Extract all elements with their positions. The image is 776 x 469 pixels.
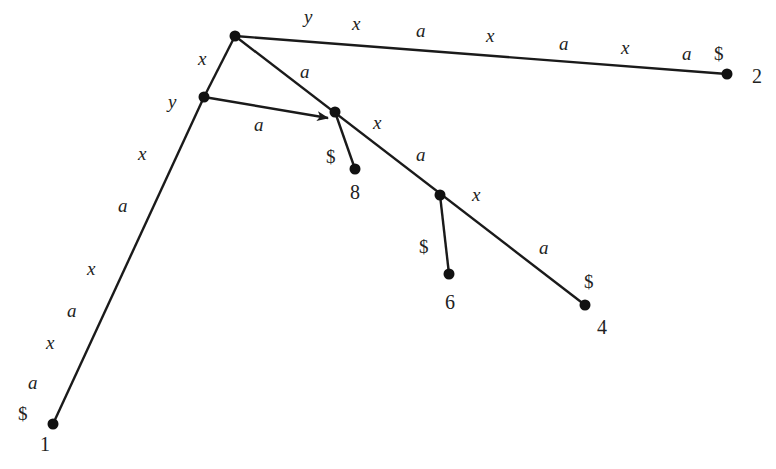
- edge-label: x: [471, 184, 481, 205]
- edge-label: x: [620, 37, 630, 58]
- suffix-link-label: a: [254, 114, 264, 135]
- internal-node-axa: [435, 190, 446, 201]
- edge-x-node-to-leaf1: [53, 97, 204, 424]
- leaf-node-1: [48, 419, 59, 430]
- leaf-label-6: 6: [445, 291, 455, 313]
- leaf-label-2: 2: [752, 65, 762, 87]
- leaf-label-1: 1: [40, 433, 50, 455]
- edge-label: y: [166, 91, 177, 112]
- edge-label: x: [351, 13, 361, 34]
- internal-node-a: [330, 107, 341, 118]
- edge-label: a: [682, 43, 692, 64]
- leaf-label-4: 4: [597, 316, 607, 338]
- edge-label: a: [559, 33, 569, 54]
- edge-root-to-leaf4-path: [235, 36, 585, 305]
- edge-label-terminal: $: [18, 403, 28, 424]
- internal-node-x: [199, 92, 210, 103]
- leaf-node-8: [350, 164, 361, 175]
- edge-label: x: [197, 48, 207, 69]
- edge-label: x: [485, 25, 495, 46]
- edge-label: a: [67, 300, 77, 321]
- leaf-node-2: [722, 69, 733, 80]
- edge-label-terminal: $: [419, 236, 429, 257]
- edge-label: a: [539, 237, 549, 258]
- leaf-node-4: [580, 300, 591, 311]
- edge-label: a: [28, 372, 38, 393]
- edge-label: x: [86, 258, 96, 279]
- edge-label-terminal: $: [584, 271, 594, 292]
- edge-label: a: [300, 61, 310, 82]
- edge-label: y: [302, 6, 313, 27]
- edge-label-terminal: $: [714, 43, 724, 64]
- edge-xaxa-node-to-leaf6: [440, 195, 449, 274]
- edge-label: x: [372, 112, 382, 133]
- edge-label-terminal: $: [326, 146, 336, 167]
- leaf-node-6: [444, 269, 455, 280]
- edge-label: a: [416, 20, 426, 41]
- root-node: [230, 31, 241, 42]
- edge-root-to-x-node: [204, 36, 235, 97]
- suffix-tree-diagram: y x a x a x a $ 2 x y x a x a x a $ 1 a …: [0, 0, 776, 469]
- edge-label: a: [416, 144, 426, 165]
- leaf-label-8: 8: [350, 181, 360, 203]
- edge-label: a: [118, 195, 128, 216]
- suffix-link-arrow: [204, 97, 328, 118]
- edge-label: x: [45, 332, 55, 353]
- edge-label: x: [137, 143, 147, 164]
